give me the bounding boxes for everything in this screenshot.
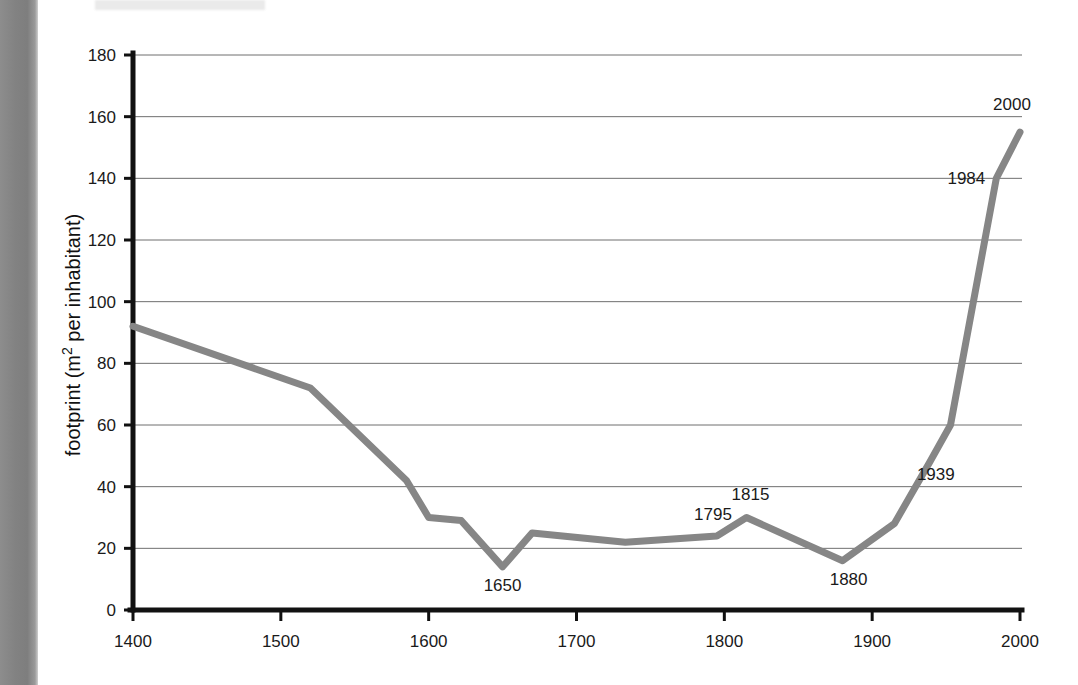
annotation-1880: 1880 [830, 570, 868, 589]
y-axis-title-text: footprint (m2 per inhabitant) [59, 214, 84, 456]
x-tick-label-1600: 1600 [410, 632, 448, 651]
x-tick-label-1700: 1700 [558, 632, 596, 651]
annotation-1939: 1939 [917, 465, 955, 484]
y-tick-label-80: 80 [97, 354, 116, 373]
x-tick-label-2000: 2000 [1001, 632, 1039, 651]
y-tick-label-60: 60 [97, 416, 116, 435]
annotation-1984: 1984 [947, 169, 985, 188]
annotation-2000: 2000 [993, 95, 1031, 114]
y-tick-label-0: 0 [107, 601, 116, 620]
y-tick-label-20: 20 [97, 539, 116, 558]
y-tick-labels: 020406080100120140160180 [88, 46, 116, 620]
data-series [133, 132, 1020, 567]
y-axis-title: footprint (m2 per inhabitant) [59, 214, 84, 456]
gridlines [133, 55, 1022, 548]
x-tick-labels: 1400150016001700180019002000 [114, 632, 1039, 651]
y-tick-label-120: 120 [88, 231, 116, 250]
y-axis-title-part-1: footprint (m [62, 355, 84, 456]
y-tick-label-100: 100 [88, 293, 116, 312]
y-tick-label-40: 40 [97, 478, 116, 497]
y-tick-label-140: 140 [88, 169, 116, 188]
y-axis-title-part-2: per inhabitant) [62, 214, 84, 347]
x-tick-label-1500: 1500 [262, 632, 300, 651]
x-tick-label-1900: 1900 [853, 632, 891, 651]
y-axis-title-superscript: 2 [59, 347, 75, 355]
annotation-1795: 1795 [694, 505, 732, 524]
line-chart: 020406080100120140160180 140015001600170… [0, 0, 1078, 685]
annotation-1650: 1650 [484, 576, 522, 595]
y-tick-label-180: 180 [88, 46, 116, 65]
series-line-footprint [133, 132, 1020, 567]
annotation-1815: 1815 [732, 485, 770, 504]
chart-canvas: 020406080100120140160180 140015001600170… [0, 0, 1078, 685]
x-tick-label-1800: 1800 [705, 632, 743, 651]
y-tick-label-160: 160 [88, 108, 116, 127]
x-tick-label-1400: 1400 [114, 632, 152, 651]
